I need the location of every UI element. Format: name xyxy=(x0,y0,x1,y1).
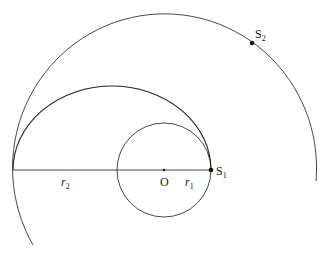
center-label: O xyxy=(160,175,169,189)
center-point xyxy=(163,169,166,172)
outer-orbit-arc xyxy=(13,14,317,245)
s1-label: S1 xyxy=(216,164,227,180)
s2-point xyxy=(250,41,255,46)
r2-label: r2 xyxy=(61,175,70,191)
orbit-diagram: O r1 r2 S1 S2 xyxy=(0,0,328,254)
transfer-orbit-arc xyxy=(13,86,211,170)
s1-point xyxy=(209,168,214,173)
r1-label: r1 xyxy=(185,175,194,191)
s2-label: S2 xyxy=(255,27,266,43)
